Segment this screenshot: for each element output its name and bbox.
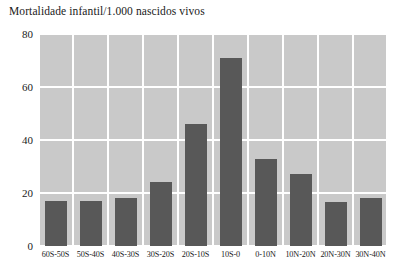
- x-axis-tick-label: 30S-20S: [143, 250, 178, 260]
- bar: [150, 182, 172, 246]
- y-axis: 020406080: [0, 34, 33, 246]
- bar: [255, 159, 277, 246]
- bar: [220, 58, 242, 246]
- bars-layer: [38, 34, 388, 246]
- bar-cell: [108, 34, 143, 246]
- x-axis-tick-label: 10S-0: [213, 250, 248, 260]
- x-axis-tick-label: 50S-40S: [73, 250, 108, 260]
- y-axis-tick-label: 40: [22, 135, 33, 146]
- x-axis-tick-label: 0-10N: [248, 250, 283, 260]
- bar-cell: [73, 34, 108, 246]
- bar: [115, 198, 137, 246]
- infant-mortality-bar-chart: Mortalidade infantil/1.000 nascidos vivo…: [0, 0, 401, 273]
- plot-area: [38, 34, 388, 246]
- bar: [45, 201, 67, 246]
- x-axis-tick-label: 60S-50S: [38, 250, 73, 260]
- x-axis: 60S-50S50S-40S40S-30S30S-20S20S-10S10S-0…: [38, 250, 388, 260]
- bar-cell: [213, 34, 248, 246]
- y-axis-tick-label: 60: [22, 82, 33, 93]
- bar-cell: [143, 34, 178, 246]
- bar-cell: [38, 34, 73, 246]
- x-axis-tick-label: 30N-40N: [353, 250, 388, 260]
- bar-cell: [178, 34, 213, 246]
- y-axis-tick-label: 0: [28, 241, 34, 252]
- y-axis-tick-label: 20: [22, 188, 33, 199]
- y-axis-tick-label: 80: [22, 29, 33, 40]
- x-axis-tick-label: 20S-10S: [178, 250, 213, 260]
- x-axis-tick-label: 40S-30S: [108, 250, 143, 260]
- bar: [185, 124, 207, 246]
- bar: [360, 198, 382, 246]
- x-axis-tick-label: 20N-30N: [318, 250, 353, 260]
- bar-cell: [318, 34, 353, 246]
- chart-title: Mortalidade infantil/1.000 nascidos vivo…: [9, 4, 205, 18]
- bar: [290, 174, 312, 246]
- bar-cell: [248, 34, 283, 246]
- bar: [80, 201, 102, 246]
- x-axis-tick-label: 10N-20N: [283, 250, 318, 260]
- bar-cell: [283, 34, 318, 246]
- bar-cell: [353, 34, 388, 246]
- bar: [325, 202, 347, 246]
